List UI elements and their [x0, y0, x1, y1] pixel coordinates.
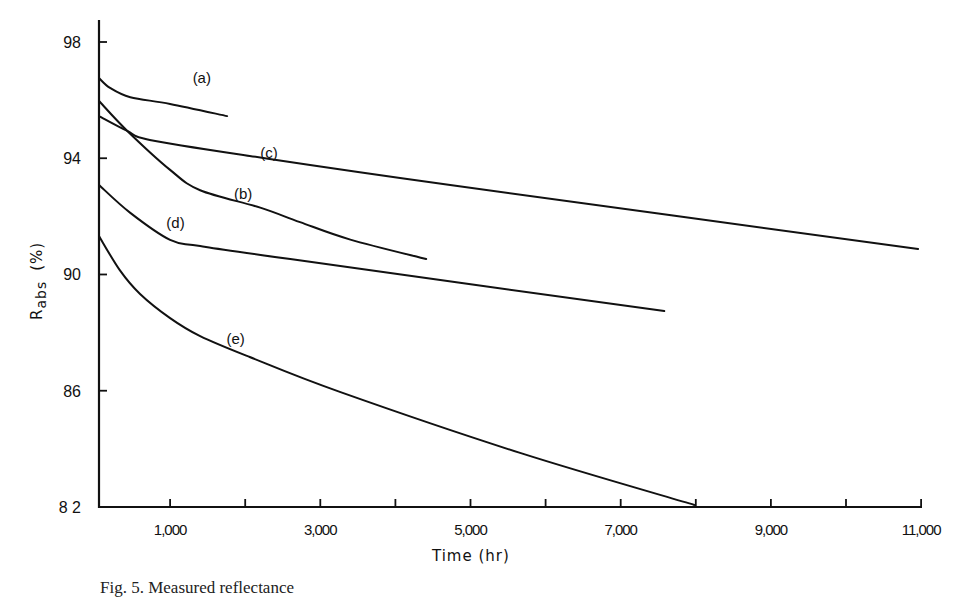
x-tick-label: 5,000	[454, 521, 487, 538]
series-line-e	[99, 236, 694, 505]
x-axis-ticks: 1,0003,0005,0007,0009,00011,000	[154, 499, 941, 538]
y-axis-title-sub: abs	[33, 281, 49, 309]
x-tick-label: 3,000	[304, 521, 337, 538]
y-tick-label: 94	[63, 150, 81, 167]
x-axis-title: Time (hr)	[431, 547, 510, 565]
axis-lines	[99, 20, 922, 507]
y-tick-label: 98	[63, 34, 81, 51]
y-axis-title-main: R	[28, 309, 46, 320]
x-tick-label: 7,000	[604, 521, 637, 538]
figure-caption: Fig. 5. Measured reflectance	[100, 578, 294, 598]
y-tick-label: 8 2	[59, 499, 81, 516]
y-tick-label: 86	[63, 383, 81, 400]
x-tick-label: 11,000	[902, 521, 941, 538]
data-series	[99, 78, 918, 505]
series-line-c	[99, 116, 918, 249]
axes	[99, 20, 922, 507]
series-label-b: (b)	[234, 185, 252, 202]
y-tick-label: 90	[63, 266, 81, 283]
series-line-b	[99, 101, 426, 259]
series-label-c: (c)	[260, 144, 278, 161]
x-tick-label: 9,000	[755, 521, 788, 538]
svg-text:Rabs(%): Rabs(%)	[28, 242, 49, 320]
series-label-d: (d)	[166, 214, 184, 231]
y-axis-title-unit: (%)	[28, 242, 46, 271]
x-tick-label: 1,000	[154, 521, 187, 538]
series-label-a: (a)	[193, 69, 211, 86]
series-label-e: (e)	[226, 330, 244, 347]
y-axis-title: Rabs(%)	[28, 242, 49, 320]
